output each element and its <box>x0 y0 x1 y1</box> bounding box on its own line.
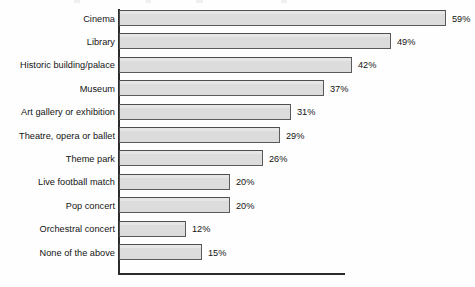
bar-row: Historic building/palace42% <box>0 57 475 74</box>
category-label: Theatre, opera or ballet <box>19 130 115 141</box>
bar-row: Theatre, opera or ballet29% <box>0 127 475 144</box>
category-label: None of the above <box>40 247 115 258</box>
bar-row: Library49% <box>0 33 475 50</box>
bar-highlight <box>120 11 445 14</box>
bar-value-label: 15% <box>208 247 226 258</box>
bar-chart: Cinema59%Library49%Historic building/pal… <box>0 0 475 287</box>
category-label: Museum <box>80 83 115 94</box>
category-label: Orchestral concert <box>40 224 115 235</box>
bar-value-label: 12% <box>192 224 210 235</box>
bar-value-label: 31% <box>297 107 315 118</box>
category-label: Art gallery or exhibition <box>21 107 115 118</box>
bar-row: None of the above15% <box>0 244 475 261</box>
bar <box>119 221 186 237</box>
bar-value-label: 20% <box>236 177 254 188</box>
bar <box>119 150 263 166</box>
bar-row: Cinema59% <box>0 10 475 27</box>
bar-highlight <box>120 198 229 201</box>
bar-row: Museum37% <box>0 80 475 97</box>
bar-highlight <box>120 245 201 248</box>
category-label: Historic building/palace <box>20 60 115 71</box>
bar-highlight <box>120 175 229 178</box>
bar-value-label: 26% <box>269 153 287 164</box>
bar <box>119 104 291 120</box>
bar-value-label: 59% <box>452 13 470 24</box>
category-label: Live football match <box>38 177 115 188</box>
bar <box>119 10 446 26</box>
bar-highlight <box>120 128 279 131</box>
bar <box>119 33 391 49</box>
bar-value-label: 37% <box>330 83 348 94</box>
bar-highlight <box>120 105 290 108</box>
bar-highlight <box>120 151 262 154</box>
bar <box>119 57 352 73</box>
bar-rows-container: Cinema59%Library49%Historic building/pal… <box>0 0 475 287</box>
bar-row: Theme park26% <box>0 150 475 167</box>
bar-highlight <box>120 34 390 37</box>
category-label: Pop concert <box>66 200 115 211</box>
bar <box>119 80 324 96</box>
category-label: Cinema <box>83 13 115 24</box>
bar-value-label: 42% <box>358 60 376 71</box>
bar-row: Pop concert20% <box>0 197 475 214</box>
bar <box>119 244 202 260</box>
bar-row: Orchestral concert12% <box>0 221 475 238</box>
bar <box>119 127 280 143</box>
bar <box>119 174 230 190</box>
bar-highlight <box>120 81 323 84</box>
bar-value-label: 20% <box>236 200 254 211</box>
category-label: Theme park <box>66 153 115 164</box>
bar-value-label: 49% <box>397 36 415 47</box>
bar-row: Art gallery or exhibition31% <box>0 104 475 121</box>
bar-row: Live football match20% <box>0 174 475 191</box>
category-label: Library <box>87 36 115 47</box>
bar-highlight <box>120 222 185 225</box>
bar-highlight <box>120 58 351 61</box>
bar-value-label: 29% <box>286 130 304 141</box>
bar <box>119 197 230 213</box>
